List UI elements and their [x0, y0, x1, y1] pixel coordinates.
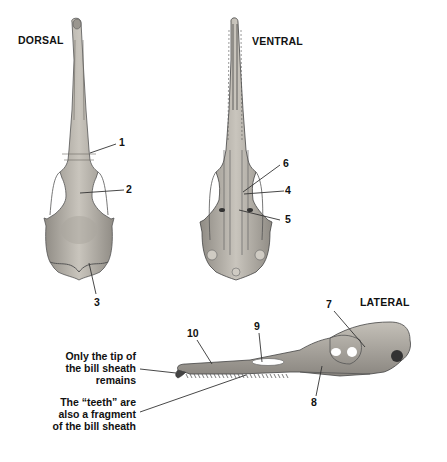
label-1: 1 — [119, 136, 125, 148]
caption-line: The “teeth” are — [30, 396, 136, 408]
label-3: 3 — [94, 296, 100, 308]
dorsal-skull — [44, 18, 114, 280]
label-10: 10 — [187, 327, 199, 339]
label-8: 8 — [311, 396, 317, 408]
caption-teeth: The “teeth” are also a fragment of the b… — [30, 396, 136, 432]
label-4: 4 — [285, 184, 291, 196]
label-7: 7 — [326, 298, 332, 310]
bill-teeth — [186, 374, 288, 378]
ventral-skull — [200, 18, 272, 280]
caption-line: of the bill sheath — [30, 420, 136, 432]
caption-line: remains — [30, 374, 136, 386]
view-title-dorsal: DORSAL — [18, 34, 64, 46]
view-title-ventral: VENTRAL — [252, 35, 303, 47]
label-9: 9 — [254, 320, 260, 332]
lateral-skull — [176, 322, 411, 378]
caption-line: the bill sheath — [30, 362, 136, 374]
caption-bill-tip: Only the tip of the bill sheath remains — [30, 350, 136, 386]
view-title-lateral: LATERAL — [360, 296, 410, 308]
label-5: 5 — [285, 213, 291, 225]
caption-line: also a fragment — [30, 408, 136, 420]
label-6: 6 — [283, 157, 289, 169]
caption-line: Only the tip of — [30, 350, 136, 362]
skull-illustrations — [0, 0, 447, 462]
label-2: 2 — [126, 183, 132, 195]
